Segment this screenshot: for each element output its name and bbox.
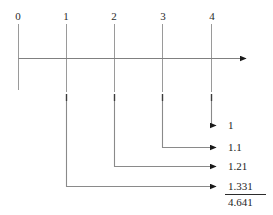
term-label-1: 1: [228, 119, 234, 131]
branch-path-term-1-1: [163, 101, 217, 148]
term-label-1-331: 1.331: [228, 180, 253, 192]
sum-total-label: 4.641: [228, 196, 253, 208]
axis-tick-label-0: 0: [10, 11, 26, 22]
term-label-1-21: 1.21: [228, 160, 247, 172]
branch-path-term-1-331: [67, 101, 217, 187]
branch-path-term-1-21: [115, 101, 217, 167]
number-line-diagram: 0 1 2 3 4 1 1.1 1.21 1.331 4.641: [0, 0, 273, 215]
axis-tick-label-1: 1: [58, 11, 74, 22]
branch-path-term-1: [212, 101, 217, 126]
axis-tick-label-4: 4: [204, 11, 220, 22]
axis-tick-label-3: 3: [155, 11, 171, 22]
axis-tick-label-2: 2: [106, 11, 122, 22]
term-label-1-1: 1.1: [228, 141, 242, 153]
